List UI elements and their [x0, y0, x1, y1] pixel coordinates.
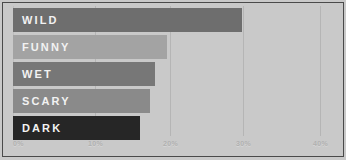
- xtick-label-20: 20%: [163, 140, 178, 147]
- xtick-label-40: 40%: [313, 140, 328, 147]
- gridline-30: [243, 6, 244, 136]
- bar-label-dark: DARK: [22, 116, 62, 140]
- chart-plot-area: WILD FUNNY WET SCARY DARK 0% 10% 20% 30%…: [0, 0, 346, 160]
- xtick-label-0: 0%: [13, 140, 24, 147]
- bar-chart-screenshot: WILD FUNNY WET SCARY DARK 0% 10% 20% 30%…: [0, 0, 346, 160]
- bar-label-wet: WET: [22, 62, 53, 86]
- bar-label-funny: FUNNY: [22, 35, 70, 59]
- bar-label-scary: SCARY: [22, 89, 71, 113]
- xtick-label-30: 30%: [236, 140, 251, 147]
- xtick-label-10: 10%: [88, 140, 103, 147]
- gridline-40: [320, 6, 321, 136]
- bar-label-wild: WILD: [22, 8, 59, 32]
